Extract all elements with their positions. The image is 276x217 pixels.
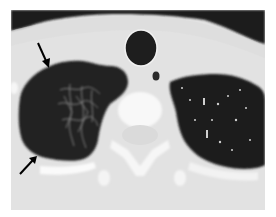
- vertebral-body: [118, 92, 162, 128]
- esophagus: [153, 72, 160, 81]
- ct-scan-frame: [11, 10, 265, 210]
- ct-scan-image: [11, 10, 265, 210]
- trachea: [125, 30, 157, 66]
